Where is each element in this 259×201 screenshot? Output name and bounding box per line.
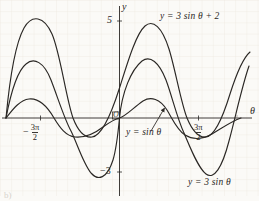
fraction-denominator: 2 — [195, 132, 201, 142]
minus-sign: − — [23, 126, 29, 139]
graph-canvas — [0, 0, 259, 201]
curve-sin-theta — [6, 99, 241, 139]
y-tick-label-minus3: −3 — [100, 166, 111, 176]
x-axis-label: θ — [250, 106, 255, 116]
x-tick-label-minus-3pi-over-2: − 3π 2 — [23, 123, 40, 142]
sine-graph-figure: y θ O 5 −3 − 3π 2 3π 2 y = 3 sin θ + 2 y… — [0, 0, 259, 201]
y-axis-label: y — [122, 2, 126, 12]
curve-label-3sin-theta-plus-2: y = 3 sin θ + 2 — [160, 12, 220, 22]
fraction-numerator: 3π — [193, 123, 204, 132]
y-tick-label-5: 5 — [107, 15, 112, 25]
figure-part-label: b) — [4, 190, 12, 200]
curve-label-sin-theta: y = sin θ — [126, 128, 161, 138]
figure-background — [0, 0, 259, 201]
curve-3sin-theta-plus-2 — [6, 19, 250, 137]
origin-label: O — [113, 111, 119, 119]
curve-label-3sin-theta: y = 3 sin θ — [188, 178, 231, 188]
fraction-numerator: 3π — [30, 123, 41, 132]
curve-3sin-theta — [6, 59, 249, 178]
grid-pattern — [0, 0, 259, 196]
x-tick-label-3pi-over-2: 3π 2 — [193, 123, 204, 142]
fraction-denominator: 2 — [32, 132, 38, 142]
